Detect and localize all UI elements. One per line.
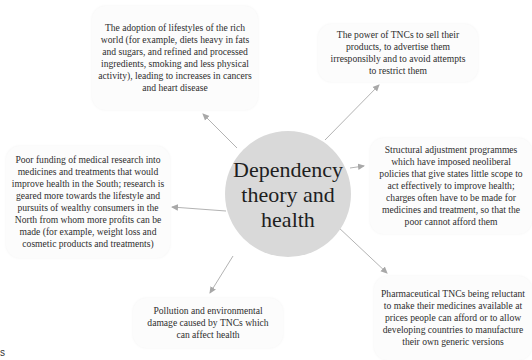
central-concept-circle: Dependency theory and health: [225, 131, 351, 257]
diagram-canvas: The adoption of lifestyles of the rich w…: [0, 0, 532, 360]
arrow-to-lifestyles: [203, 114, 237, 148]
arrow-to-pollution: [210, 256, 233, 293]
node-structural-adjustment-text: Structural adjustment programmes which h…: [376, 144, 526, 228]
node-pollution: Pollution and environmental damage cause…: [133, 298, 283, 348]
arrow-to-research-funding: [172, 207, 226, 211]
node-lifestyles-text: The adoption of lifestyles of the rich w…: [98, 22, 252, 94]
node-structural-adjustment: Structural adjustment programmes which h…: [370, 138, 532, 234]
arrow-to-tnc-power: [325, 85, 379, 140]
node-tnc-power: The power of TNCs to sell their products…: [318, 24, 478, 82]
node-pharma-tncs: Pharmaceutical TNCs being reluctant to m…: [374, 276, 532, 360]
node-research-funding-text: Poor funding of medical research into me…: [10, 154, 166, 250]
node-research-funding: Poor funding of medical research into me…: [6, 146, 170, 258]
cropped-text-fragment: s: [0, 348, 5, 358]
node-lifestyles: The adoption of lifestyles of the rich w…: [92, 6, 258, 110]
node-pollution-text: Pollution and environmental damage cause…: [141, 305, 275, 341]
arrow-to-structural-adjustment: [350, 166, 364, 168]
node-pharma-tncs-text: Pharmaceutical TNCs being reluctant to m…: [378, 288, 528, 348]
central-concept-label: Dependency theory and health: [225, 157, 351, 232]
node-tnc-power-text: The power of TNCs to sell their products…: [328, 29, 468, 77]
